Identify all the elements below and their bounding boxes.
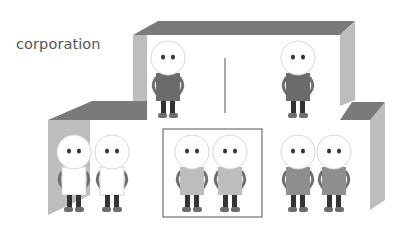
torso <box>286 167 310 195</box>
left-roof <box>48 101 147 120</box>
person-figure <box>213 135 247 212</box>
person-figure <box>281 41 315 118</box>
right-leg <box>114 195 119 209</box>
middle-department-group <box>175 135 247 212</box>
left-eye <box>185 149 189 154</box>
right-foot <box>335 207 344 212</box>
right-foot <box>299 113 308 118</box>
left-foot <box>182 207 191 212</box>
left-eye <box>67 149 71 154</box>
left-eye <box>327 149 331 154</box>
head <box>95 135 129 169</box>
right-foot <box>231 207 240 212</box>
torso <box>322 167 346 195</box>
left-leg <box>223 195 228 209</box>
head <box>213 135 247 169</box>
torso <box>62 167 86 195</box>
person-figure <box>281 135 315 212</box>
top-level-group <box>151 41 315 118</box>
right-eye <box>115 149 119 154</box>
left-leg <box>185 195 190 209</box>
left-eye <box>291 149 295 154</box>
right-eye <box>77 149 81 154</box>
person-figure <box>317 135 351 212</box>
right-eye <box>301 55 305 60</box>
torso <box>180 167 204 195</box>
right-foot <box>193 207 202 212</box>
left-department-group <box>57 135 129 212</box>
left-leg <box>327 195 332 209</box>
right-leg <box>170 101 175 115</box>
head <box>175 135 209 169</box>
left-foot <box>64 207 73 212</box>
right-leg <box>300 195 305 209</box>
right-foot <box>299 207 308 212</box>
left-foot <box>324 207 333 212</box>
right-leg <box>232 195 237 209</box>
head <box>281 135 315 169</box>
figures-layer <box>57 41 351 212</box>
left-leg <box>67 195 72 209</box>
left-leg <box>161 101 166 115</box>
right-leg <box>194 195 199 209</box>
right-foot <box>75 207 84 212</box>
right-eye <box>195 149 199 154</box>
right-eye <box>233 149 237 154</box>
right-leg <box>76 195 81 209</box>
right-leg <box>336 195 341 209</box>
right-eye <box>171 55 175 60</box>
left-leg <box>291 195 296 209</box>
right-eye <box>337 149 341 154</box>
left-leg <box>291 101 296 115</box>
right-foot <box>169 113 178 118</box>
head <box>281 41 315 75</box>
top-right-wall <box>340 21 355 106</box>
left-foot <box>158 113 167 118</box>
torso <box>286 73 310 101</box>
right-wall <box>370 102 385 210</box>
torso <box>218 167 242 195</box>
person-figure <box>95 135 129 212</box>
head <box>57 135 91 169</box>
person-figure <box>151 41 185 118</box>
left-leg <box>105 195 110 209</box>
head <box>151 41 185 75</box>
left-foot <box>288 113 297 118</box>
right-department-group <box>281 135 351 212</box>
torso <box>100 167 124 195</box>
left-eye <box>223 149 227 154</box>
left-eye <box>291 55 295 60</box>
torso <box>156 73 180 101</box>
left-foot <box>220 207 229 212</box>
person-figure <box>175 135 209 212</box>
left-eye <box>105 149 109 154</box>
left-eye <box>161 55 165 60</box>
head <box>317 135 351 169</box>
right-foot <box>113 207 122 212</box>
right-leg <box>300 101 305 115</box>
left-foot <box>102 207 111 212</box>
right-eye <box>301 149 305 154</box>
left-foot <box>288 207 297 212</box>
corporation-label: corporation <box>16 36 101 52</box>
top-roof <box>133 21 355 35</box>
